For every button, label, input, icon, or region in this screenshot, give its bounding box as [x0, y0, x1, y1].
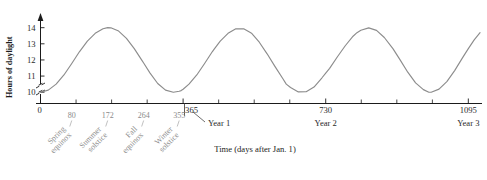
x-major-tick-label: 0 — [38, 105, 42, 115]
x-major-tick-label: 730 — [319, 105, 332, 115]
x-annotation-leader — [70, 121, 72, 127]
x-annotation-label: 355 — [173, 111, 185, 120]
x-major-tick-label: 1095 — [460, 105, 477, 115]
y-tick-label: 12 — [27, 55, 36, 65]
x-major-tick-label: 365 — [185, 105, 198, 115]
x-axis-title: Time (days after Jan. 1) — [214, 144, 296, 154]
y-tick-label: 10 — [27, 87, 36, 97]
daylight-hours-chart-figure: Hours of daylight 1011121314 03657301095… — [0, 0, 487, 180]
y-tick-label-group: 1011121314 — [27, 23, 36, 98]
x-annotation-label-group: 80172264355 — [68, 111, 185, 120]
y-tick-label: 14 — [27, 23, 36, 33]
season-label: Summersolstice — [78, 124, 110, 156]
x-annotation-leader — [177, 121, 179, 127]
x-annotation-leader — [142, 121, 144, 127]
year-label: Year 1 — [208, 118, 230, 128]
x-minor-tick-group — [76, 100, 432, 104]
year-label: Year 2 — [315, 118, 337, 128]
x-annotation-tick-group — [70, 121, 179, 127]
year-label-group: Year 1Year 2Year 3 — [208, 118, 479, 128]
season-label: Springequinox — [43, 125, 74, 156]
x-annotation-label: 172 — [102, 111, 114, 120]
daylight-curve — [41, 28, 481, 93]
year-label: Year 3 — [457, 118, 479, 128]
season-label-group: SpringequinoxSummersolsticeFallequinoxWi… — [43, 124, 181, 156]
y-tick-label: 13 — [27, 39, 36, 49]
x-annotation-label: 264 — [138, 111, 150, 120]
y-axis-break-icon — [36, 83, 45, 95]
season-label: Wintersolstice — [151, 124, 181, 154]
chart-svg: Hours of daylight 1011121314 03657301095… — [0, 0, 487, 180]
x-annotation-leader — [106, 121, 108, 127]
season-label: Fallequinox — [114, 124, 145, 155]
x-annotation-label: 80 — [68, 111, 76, 120]
y-tick-label: 11 — [27, 71, 35, 81]
y-tick-group — [41, 28, 45, 93]
y-axis-title: Hours of daylight — [5, 36, 14, 98]
